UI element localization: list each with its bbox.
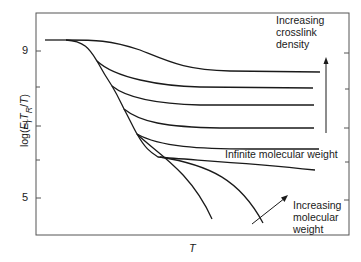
ylabel-T1-sub: R	[24, 107, 34, 113]
curve-linear-low-mw	[137, 134, 212, 219]
y-tick-label-9: 9	[8, 44, 28, 56]
annotation-crosslink-density: Increasing crosslink density	[276, 14, 324, 50]
ylabel-T2: T	[18, 98, 30, 104]
ylabel-T1: T	[18, 113, 30, 119]
curve-crosslink-3	[97, 61, 314, 105]
ylabel-prefix: log(	[18, 130, 30, 148]
y-axis-ticks-left	[36, 51, 41, 198]
curves	[45, 40, 320, 223]
ylabel-sep: /	[18, 104, 30, 107]
y-axis-ticks-right	[344, 53, 349, 200]
curve-infinite-mw	[124, 109, 319, 149]
x-axis-label: T	[189, 242, 196, 254]
y-tick-label-5: 5	[8, 191, 28, 203]
y-axis-label: log(ErTR/T)	[18, 81, 33, 161]
annotation-infinite-mw: Infinite molecular weight	[225, 148, 338, 160]
curve-crosslink-4	[112, 86, 314, 128]
crosslink-arrow	[324, 57, 329, 133]
annotation-increasing-mw: Increasing molecular weight	[293, 199, 341, 235]
ylabel-E: E	[18, 123, 30, 130]
ylabel-suffix: )	[18, 94, 30, 98]
molweight-arrow	[252, 195, 288, 224]
ylabel-E-sub: r	[24, 120, 34, 123]
